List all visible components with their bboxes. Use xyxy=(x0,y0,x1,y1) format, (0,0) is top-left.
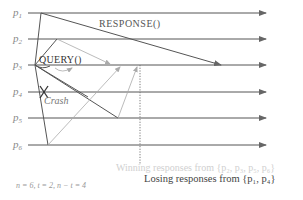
query-label: QUERY() xyxy=(39,55,82,65)
label-p5: p5 xyxy=(13,112,22,125)
query-messages xyxy=(35,13,118,145)
response-from-p3 xyxy=(55,68,72,71)
label-p4: p4 xyxy=(13,86,22,99)
winning-responses-label: Winning responses from {p₂, p₃, p₅, p₆} xyxy=(116,163,275,173)
label-p3: p3 xyxy=(13,59,22,72)
label-p1: p1 xyxy=(13,7,22,20)
process-timelines xyxy=(28,13,266,145)
crash-label: Crash xyxy=(44,96,68,106)
label-p6: p6 xyxy=(13,139,22,152)
response-from-p6 xyxy=(48,67,120,145)
parameters-label: n = 6, t = 2, n − t = 4 xyxy=(16,182,86,190)
response-label: RESPONSE() xyxy=(99,19,161,29)
label-p2: p2 xyxy=(13,33,22,46)
losing-responses-label: Losing responses from {p₁, p₄} xyxy=(144,174,275,185)
